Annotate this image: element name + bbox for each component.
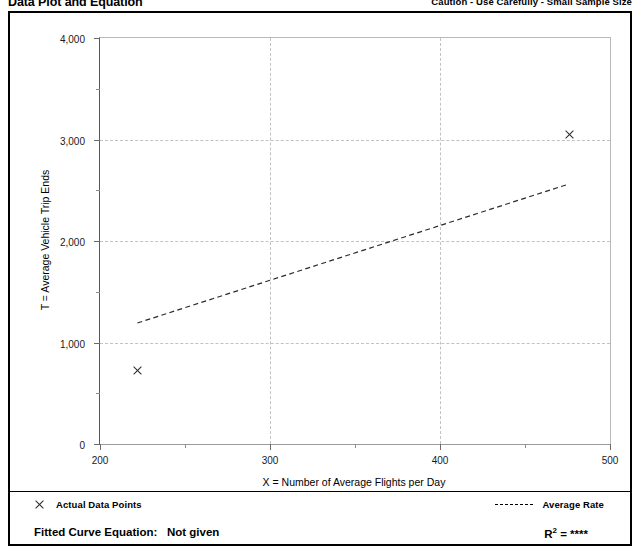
y-tick-label-1000: 1,000 [60, 338, 85, 349]
page-title: Data Plot and Equation [8, 0, 143, 9]
x-tick-300 [270, 444, 271, 450]
y-tick-label-3000: 3,000 [60, 135, 85, 146]
x-tick-minor-450 [525, 444, 526, 448]
x-marker-icon [34, 499, 45, 510]
x-tick-label-200: 200 [92, 455, 109, 466]
legend-divider [10, 491, 630, 492]
legend-label-data-points: Actual Data Points [56, 499, 142, 510]
y-axis-title-text: T = Average Vehicle Trip Ends [38, 37, 52, 443]
data-point-marker [132, 365, 143, 376]
x-tick-minor-250 [185, 444, 186, 448]
legend-entry-average-rate: Average Rate [495, 499, 604, 510]
page-header: Data Plot and Equation Caution - Use Car… [0, 0, 641, 11]
r-squared-symbol: R [544, 528, 552, 540]
legend-entry-data-points: Actual Data Points [34, 499, 142, 510]
chart-legend: Actual Data Points Average Rate [10, 499, 630, 525]
y-axis-title: T = Average Vehicle Trip Ends [38, 37, 52, 443]
x-tick-400 [440, 444, 441, 450]
x-axis-title: X = Number of Average Flights per Day [99, 476, 609, 488]
legend-label-average-rate: Average Rate [542, 499, 604, 510]
r-squared-exponent: 2 [553, 526, 557, 535]
dashed-line-icon [495, 504, 533, 505]
x-tick-label-500: 500 [602, 455, 619, 466]
x-tick-minor-350 [355, 444, 356, 448]
fitted-curve-equation-label: Fitted Curve Equation: [34, 526, 157, 538]
r-squared-value: R2 = **** [544, 526, 588, 540]
x-tick-label-400: 400 [432, 455, 449, 466]
y-tick-label-2000: 2,000 [60, 237, 85, 248]
fitted-curve-equation: Fitted Curve Equation: Not given [34, 526, 219, 538]
x-tick-200 [100, 444, 101, 450]
caution-note: Caution - Use Carefully - Small Sample S… [431, 0, 632, 7]
x-tick-500 [610, 444, 611, 450]
data-point-marker [564, 129, 575, 140]
figure-frame: T = Average Vehicle Trip Ends 0 1,000 2,… [8, 11, 632, 546]
plot-axes-box: 0 1,000 2,000 3,000 4,000 200 300 [99, 37, 611, 445]
y-tick-label-4000: 4,000 [60, 34, 85, 45]
fitted-curve-equation-value: Not given [167, 526, 219, 538]
equation-row: Fitted Curve Equation: Not given R2 = **… [10, 526, 630, 548]
average-rate-trendline [100, 38, 610, 444]
plot-region: T = Average Vehicle Trip Ends 0 1,000 2,… [10, 13, 634, 491]
r-squared-equals: = **** [560, 528, 588, 540]
x-tick-label-300: 300 [262, 455, 279, 466]
y-tick-label-0: 0 [79, 440, 85, 451]
